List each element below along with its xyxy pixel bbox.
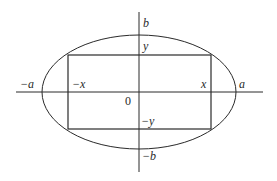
label-pos-x: x — [201, 78, 206, 90]
label-origin: 0 — [125, 95, 131, 107]
label-neg-a: −a — [20, 78, 34, 90]
diagram-canvas — [0, 0, 277, 181]
label-neg-y: −y — [141, 115, 154, 127]
label-neg-x: −x — [72, 78, 85, 90]
label-neg-b: −b — [142, 150, 156, 162]
label-pos-b: b — [143, 17, 149, 29]
label-pos-y: y — [143, 40, 148, 52]
label-pos-a: a — [239, 78, 245, 90]
ellipse-rectangle-diagram: −a a −x x b −b y −y 0 — [0, 0, 277, 181]
